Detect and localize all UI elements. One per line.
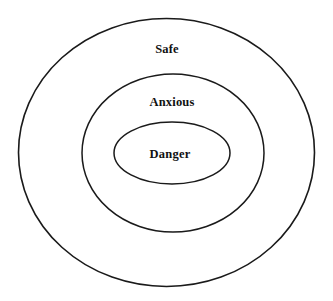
concentric-zones-diagram: Safe Anxious Danger: [0, 0, 333, 301]
zones-svg-canvas: Safe Anxious Danger: [0, 0, 333, 301]
zone-label-safe: Safe: [155, 42, 179, 56]
zone-label-anxious: Anxious: [149, 95, 194, 109]
zone-label-danger: Danger: [150, 147, 191, 161]
